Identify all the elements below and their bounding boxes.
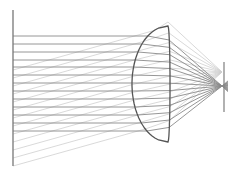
lens-ray-diagram	[0, 0, 238, 176]
oblique-ray	[13, 72, 222, 166]
oblique-ray	[13, 72, 222, 134]
